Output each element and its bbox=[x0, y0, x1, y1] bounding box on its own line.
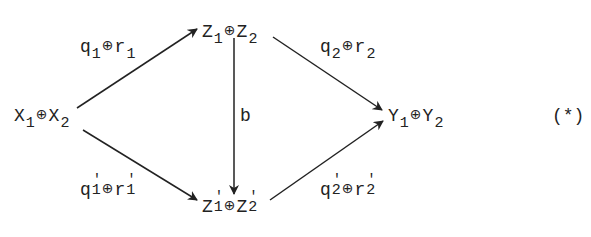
edge-xzp-sub2: 1 bbox=[126, 183, 135, 198]
commutative-diagram: X1⊕X2 Z1⊕Z2 Z'1⊕Z'2 Y1⊕Y2 q1⊕r1 q'1⊕r'1 … bbox=[0, 0, 591, 237]
node-x-base1: X bbox=[14, 106, 25, 126]
edge-label-q1-oplus-r1: q1⊕r1 bbox=[80, 38, 135, 56]
edge-xzp-base1: q bbox=[80, 180, 91, 200]
equation-tag: (*) bbox=[552, 107, 584, 125]
node-z-base2: Z bbox=[237, 22, 248, 42]
oplus-icon: ⊕ bbox=[102, 180, 114, 196]
edge-label-b: b bbox=[240, 107, 251, 125]
node-x-base2: X bbox=[49, 106, 60, 126]
node-z-base1: Z bbox=[202, 22, 213, 42]
oplus-icon: ⊕ bbox=[224, 197, 236, 213]
edge-xz-sub1: 1 bbox=[92, 46, 101, 63]
edge-xzp-primesub1: '1 bbox=[91, 177, 101, 195]
node-zp-sub1: 1 bbox=[214, 200, 223, 215]
edge-xz-base1: q bbox=[80, 37, 91, 57]
node-zp-primesub1: '1 bbox=[213, 194, 223, 212]
edge-label-qprime2-oplus-rprime2: q'2⊕r'2 bbox=[320, 177, 375, 199]
edge-zy-sub2: 2 bbox=[366, 46, 375, 63]
node-x1-oplus-x2: X1⊕X2 bbox=[14, 107, 69, 125]
edge-zy-base2: r bbox=[355, 37, 366, 57]
node-y-base2: Y bbox=[423, 106, 434, 126]
edge-xzp-base2: r bbox=[115, 180, 126, 200]
edge-zy-sub1: 2 bbox=[332, 46, 341, 63]
oplus-icon: ⊕ bbox=[102, 37, 114, 53]
edge-zpy-base2: r bbox=[355, 180, 366, 200]
arrows-layer bbox=[0, 0, 591, 237]
node-zp-base1: Z bbox=[202, 197, 213, 217]
oplus-icon: ⊕ bbox=[410, 106, 422, 122]
node-x-sub2: 2 bbox=[60, 115, 69, 132]
node-zp-sub2: 2 bbox=[248, 200, 257, 215]
node-zp-base2: Z bbox=[237, 197, 248, 217]
node-zp-primesub2: '2 bbox=[247, 194, 257, 212]
node-z-sub2: 2 bbox=[248, 31, 257, 48]
edge-xzp-sub1: 1 bbox=[92, 183, 101, 198]
edge-zpy-base1: q bbox=[320, 180, 331, 200]
edge-label-q2-oplus-r2: q2⊕r2 bbox=[320, 38, 375, 56]
node-y-sub2: 2 bbox=[434, 115, 443, 132]
oplus-icon: ⊕ bbox=[36, 106, 48, 122]
edge-zpy-primesub1: '2 bbox=[331, 177, 341, 195]
edge-xz-base2: r bbox=[115, 37, 126, 57]
node-y1-oplus-y2: Y1⊕Y2 bbox=[388, 107, 443, 125]
oplus-icon: ⊕ bbox=[224, 22, 236, 38]
node-z1-oplus-z2: Z1⊕Z2 bbox=[202, 23, 257, 41]
edge-zpy-sub2: 2 bbox=[366, 183, 375, 198]
edge-zpy-primesub2: '2 bbox=[365, 177, 375, 195]
edge-b-label: b bbox=[240, 106, 251, 126]
edge-label-qprime1-oplus-rprime1: q'1⊕r'1 bbox=[80, 177, 135, 199]
edge-zy-base1: q bbox=[320, 37, 331, 57]
oplus-icon: ⊕ bbox=[342, 37, 354, 53]
node-y-sub1: 1 bbox=[400, 115, 409, 132]
node-x-sub1: 1 bbox=[26, 115, 35, 132]
edge-xz-sub2: 1 bbox=[126, 46, 135, 63]
edge-xzp-primesub2: '1 bbox=[125, 177, 135, 195]
node-y-base1: Y bbox=[388, 106, 399, 126]
edge-zpy-sub1: 2 bbox=[332, 183, 341, 198]
oplus-icon: ⊕ bbox=[342, 180, 354, 196]
node-z-sub1: 1 bbox=[214, 31, 223, 48]
equation-tag-text: (*) bbox=[552, 106, 584, 126]
node-zprime1-oplus-zprime2: Z'1⊕Z'2 bbox=[202, 194, 257, 216]
